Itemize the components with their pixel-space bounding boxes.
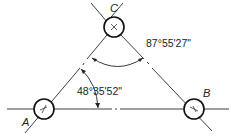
- label-a: A: [21, 116, 29, 128]
- angle-a-value: 48°35'52": [77, 85, 122, 97]
- angle-c-value: 87°55'27": [146, 37, 191, 49]
- station-c: [104, 17, 124, 37]
- triangulation-diagram: C A B 87°55'27" 48°35'52": [0, 0, 231, 136]
- line-ca-lower: [25, 68, 80, 133]
- line-cb-lower: [152, 68, 212, 131]
- line-ca-upper: [87, 35, 107, 59]
- angle-arc-c: [92, 58, 143, 67]
- label-c: C: [110, 2, 118, 14]
- label-b: B: [203, 87, 210, 99]
- station-a: [34, 99, 54, 119]
- line-cb-dash: [147, 62, 149, 64]
- arrowhead-a-bottom: [95, 103, 100, 108]
- arrowhead-c-right: [138, 58, 143, 62]
- line-cb-ext-top: [91, 3, 108, 23]
- line-ca-dash: [83, 63, 84, 65]
- line-cb-upper: [121, 35, 144, 59]
- station-b: [184, 99, 204, 119]
- arrowhead-c-left: [92, 58, 97, 62]
